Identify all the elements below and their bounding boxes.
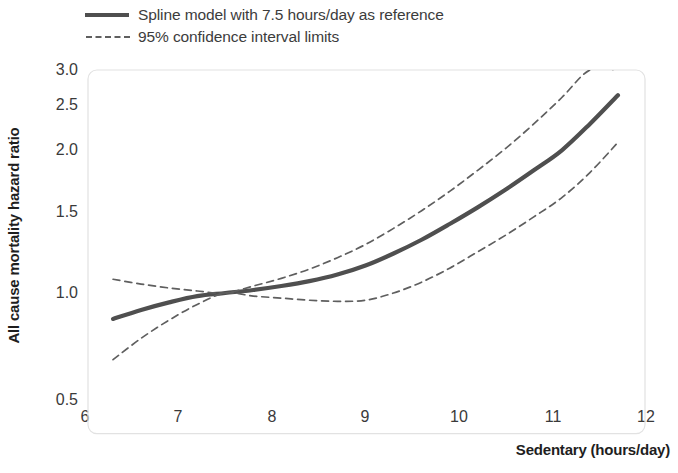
x-tick-label: 8	[252, 409, 292, 425]
x-tick-label: 6	[65, 409, 105, 425]
x-tick-label: 10	[439, 409, 479, 425]
x-tick-label: 9	[345, 409, 385, 425]
x-tick-label: 12	[626, 409, 666, 425]
chart-figure: Spline model with 7.5 hours/day as refer…	[0, 0, 678, 473]
x-axis-tick-labels: 6 7 8 9 10 11 12	[0, 0, 678, 473]
x-tick-label: 11	[533, 409, 573, 425]
x-axis-title: Sedentary (hours/day)	[300, 441, 670, 458]
x-tick-label: 7	[158, 409, 198, 425]
